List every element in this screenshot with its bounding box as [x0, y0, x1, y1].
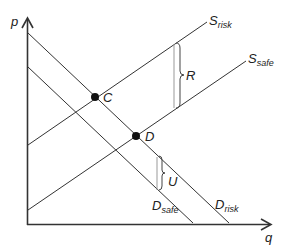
point-c-label: C [103, 90, 113, 105]
diagram-svg: p q Srisk Ssafe Drisk Dsafe R U [0, 0, 285, 251]
point-d-label: D [145, 129, 154, 144]
s-risk-label: Srisk [209, 13, 232, 30]
u-label: U [168, 174, 178, 189]
u-bracket: U [157, 156, 178, 190]
equilibrium-point-c [91, 93, 99, 101]
equilibrium-point-d [132, 132, 140, 140]
supply-demand-diagram: p q Srisk Ssafe Drisk Dsafe R U [0, 0, 285, 251]
x-axis-label: q [265, 230, 273, 245]
s-safe-label: Ssafe [248, 51, 274, 68]
d-safe-label: Dsafe [152, 198, 178, 215]
r-brace-icon [176, 43, 184, 108]
r-label: R [186, 68, 195, 83]
d-risk-curve [28, 33, 229, 223]
y-axis-label: p [10, 14, 18, 29]
d-risk-label: Drisk [215, 197, 239, 214]
